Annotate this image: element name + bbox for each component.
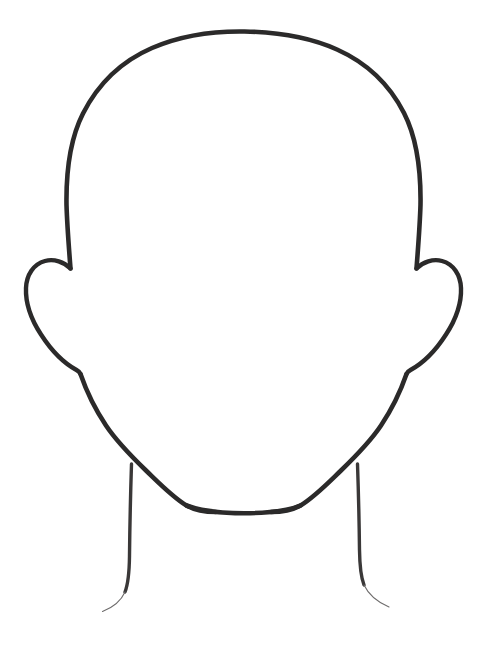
- canvas-background: [0, 0, 489, 649]
- face-outline-illustration: [0, 0, 489, 649]
- drawing-canvas: Blank Face Outline Template Blank outlin…: [0, 0, 489, 649]
